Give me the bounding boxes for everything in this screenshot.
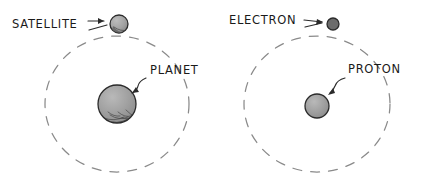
proton-pointer <box>328 78 345 95</box>
electron-circle <box>327 18 339 30</box>
planetary-system-panel: SATELLITE PLANET <box>12 15 199 172</box>
diagram-canvas: SATELLITE PLANET ELECT <box>0 0 427 185</box>
planet-circle <box>98 85 136 123</box>
satellite-body <box>109 15 129 42</box>
satellite-label: SATELLITE <box>12 17 78 31</box>
proton-circle <box>305 94 329 118</box>
planet-body <box>98 85 136 123</box>
proton-label: PROTON <box>348 62 401 76</box>
planet-label: PLANET <box>150 63 199 77</box>
atomic-system-panel: ELECTRON PROTON <box>229 13 401 172</box>
electron-pointer <box>304 19 323 27</box>
electron-label: ELECTRON <box>229 13 296 27</box>
diagram-figure: SATELLITE PLANET ELECT <box>0 0 427 185</box>
satellite-pointer <box>88 18 107 30</box>
planet-pointer <box>132 78 146 93</box>
